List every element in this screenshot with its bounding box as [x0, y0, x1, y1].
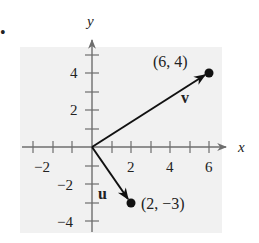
y-tick-label: −2: [57, 177, 73, 193]
x-tick-label: 2: [127, 159, 135, 175]
y-tick-label: 4: [70, 65, 78, 81]
plot-background: [20, 47, 222, 233]
point-label-6-4: (6, 4): [153, 53, 188, 71]
x-tick-label: −2: [34, 159, 50, 175]
list-bullet: •: [0, 24, 6, 41]
x-tick-label: 6: [205, 159, 213, 175]
x-axis-label: x: [237, 139, 245, 155]
coordinate-plane: •: [0, 0, 259, 243]
y-tick-label: 2: [70, 102, 78, 118]
point-6-4: [205, 69, 214, 78]
vector-label-u: u: [98, 185, 107, 202]
vector-label-v: v: [181, 89, 189, 106]
vector-diagram: •: [0, 0, 259, 243]
x-tick-label: 4: [166, 159, 174, 175]
point-2-neg3: [127, 199, 136, 208]
point-label-2-neg3: (2, −3): [141, 195, 185, 213]
y-axis-label: y: [85, 13, 94, 29]
y-tick-label: −4: [57, 214, 73, 230]
